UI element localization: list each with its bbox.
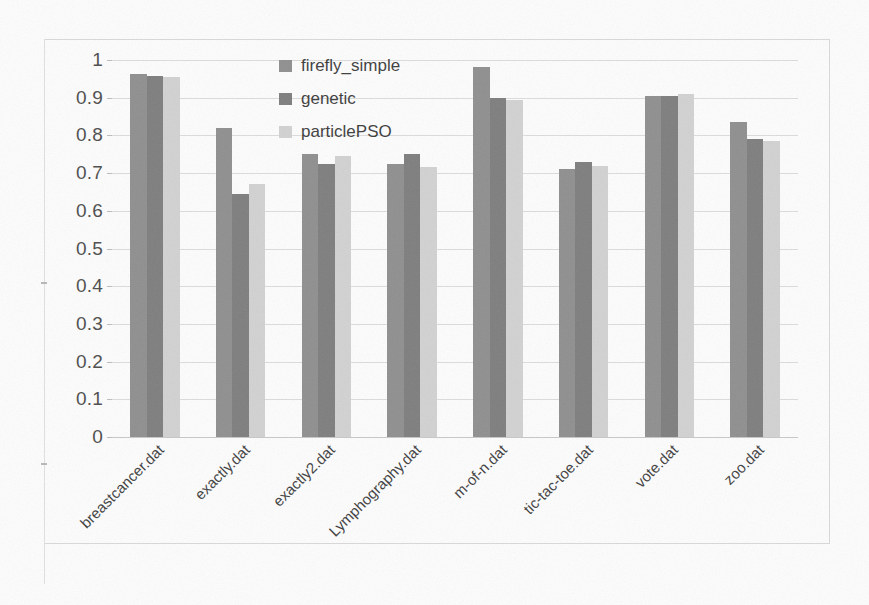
bar	[302, 154, 319, 437]
frame-tick-lower	[41, 463, 47, 465]
bar	[147, 76, 164, 437]
bar-chart-figure: 10.90.80.70.60.50.40.30.20.10 breastcanc…	[0, 0, 869, 605]
y-axis-tick-label: 0.5	[76, 238, 103, 260]
frame-tick-upper	[41, 282, 47, 284]
legend-swatch-icon	[279, 93, 292, 105]
bar-group	[730, 60, 780, 437]
bar	[763, 141, 780, 437]
bar	[420, 167, 437, 437]
bar	[747, 139, 764, 437]
bar	[730, 122, 747, 437]
y-axis-tick-label: 0.1	[76, 388, 103, 410]
x-axis-label-text: exactly2.dat	[270, 441, 339, 510]
x-axis-label-text: zoo.dat	[720, 441, 767, 488]
bar	[592, 166, 609, 437]
y-axis-tick-label: 0	[92, 426, 103, 448]
x-axis-labels: breastcancer.datexactly.datexactly2.datL…	[112, 441, 798, 591]
bar	[575, 162, 592, 437]
bar	[318, 164, 335, 437]
chart-left-border	[44, 39, 45, 584]
bar	[490, 98, 507, 437]
bar	[130, 74, 147, 437]
bar	[249, 184, 266, 437]
bar	[232, 194, 249, 437]
x-axis-label-text: vote.dat	[632, 441, 682, 491]
y-axis-tick	[107, 437, 112, 438]
legend-swatch-icon	[279, 126, 292, 138]
y-axis-tick-label: 0.3	[76, 313, 103, 335]
bar-group	[130, 60, 180, 437]
legend-item[interactable]: genetic	[279, 85, 469, 113]
bar	[404, 154, 421, 437]
legend-item-label: particlePSO	[301, 122, 392, 142]
x-axis-label-text: tic-tac-toe.dat	[519, 441, 595, 517]
bar	[559, 169, 576, 437]
y-axis-tick-label: 0.9	[76, 87, 103, 109]
legend-swatch-icon	[279, 60, 292, 72]
bar-group	[559, 60, 609, 437]
y-axis-tick-label: 0.2	[76, 351, 103, 373]
y-axis-tick-label: 0.7	[76, 162, 103, 184]
legend-item-label: firefly_simple	[301, 56, 400, 76]
x-axis-label-text: exactly.dat	[191, 441, 253, 503]
legend-item[interactable]: firefly_simple	[279, 52, 469, 80]
y-axis-tick-label: 0.4	[76, 275, 103, 297]
y-axis-tick-label: 0.6	[76, 200, 103, 222]
legend-item[interactable]: particlePSO	[279, 118, 469, 146]
y-axis-tick-label: 1	[92, 49, 103, 71]
bar	[506, 100, 523, 437]
x-axis-label-text: Lymphography.dat	[325, 441, 424, 540]
bar	[163, 77, 180, 437]
bar	[335, 156, 352, 437]
bar	[678, 94, 695, 437]
legend-item-label: genetic	[301, 89, 356, 109]
y-axis-tick-label: 0.8	[76, 124, 103, 146]
chart-legend: firefly_simplegeneticparticlePSO	[279, 52, 469, 151]
x-axis-label-text: m-of-n.dat	[450, 441, 510, 501]
bar	[661, 96, 678, 437]
